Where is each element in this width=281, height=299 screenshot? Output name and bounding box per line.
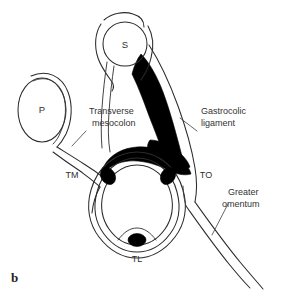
leader-transverse-mesocolon — [72, 131, 86, 146]
label-taenia-omentalis: TO — [200, 170, 212, 180]
label-taenia-mesocolica: TM — [66, 170, 79, 180]
mesocolon-to-colon-junction — [92, 187, 100, 213]
lesser-sac-left-leaf — [101, 62, 107, 148]
stomach-letter: S — [122, 39, 128, 50]
greater-omentum-leaf-anterior — [195, 202, 263, 289]
transverse-mesocolon-upper-leaf — [57, 147, 104, 178]
stomach-serosa-outline — [104, 13, 144, 27]
taenia-libera-marker — [128, 234, 146, 247]
label-gastrocolic-ligament-line2: ligament — [201, 118, 236, 128]
label-greater-omentum-line1: Greater — [228, 187, 259, 197]
label-transverse-mesocolon-line1: Transverse — [89, 106, 134, 116]
pancreas-letter: P — [39, 104, 45, 115]
taenia-mesocolica-marker — [97, 165, 118, 188]
panel-letter: b — [11, 271, 18, 284]
greater-omentum-leaf-posterior — [186, 206, 250, 288]
diagram-canvas: S P Transverse mesocolon Gastrocolic lig… — [0, 0, 281, 299]
label-gastrocolic-ligament-line1: Gastrocolic — [201, 106, 247, 116]
label-transverse-mesocolon-line2: mesocolon — [92, 118, 136, 128]
pancreas-peritoneal-envelope — [31, 73, 71, 147]
label-greater-omentum-line2: omentum — [222, 199, 260, 209]
leader-gastrocolic-ligament — [180, 118, 197, 131]
label-taenia-libera: TL — [132, 254, 143, 264]
anatomical-figure: S P Transverse mesocolon Gastrocolic lig… — [0, 0, 281, 299]
